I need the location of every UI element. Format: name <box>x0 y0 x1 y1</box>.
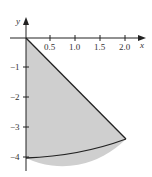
y-tick-label: −1 <box>10 62 20 72</box>
x-tick-label: 1.0 <box>69 42 81 52</box>
x-tick-label: 2.0 <box>119 42 131 52</box>
y-tick-label: −4 <box>10 152 20 162</box>
x-tick-label: 0.5 <box>44 42 56 52</box>
plot-canvas: 0.5 1.0 1.5 2.0 x −1 −2 −3 −4 y <box>0 0 152 177</box>
shaded-sector <box>26 38 126 166</box>
x-axis-label: x <box>139 40 144 50</box>
y-axis-arrow-icon <box>23 17 29 25</box>
y-tick-label: −2 <box>10 92 20 102</box>
x-tick-label: 1.5 <box>94 42 106 52</box>
y-tick-label: −3 <box>10 122 20 132</box>
y-axis-label: y <box>15 16 20 26</box>
